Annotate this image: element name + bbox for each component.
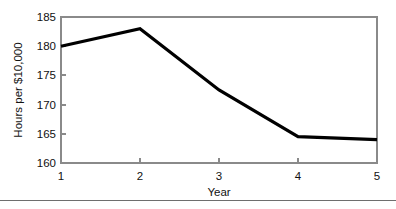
y-tick-label-160: 160	[37, 157, 56, 169]
y-tick-label-175: 175	[37, 69, 56, 81]
chart-plot-area: 160 165 170 175 180 185 1 2 3 4 5 Year H…	[0, 0, 396, 209]
y-tick-label-180: 180	[37, 40, 56, 52]
footer-divider	[0, 200, 396, 201]
x-tick-label-5: 5	[374, 170, 380, 182]
y-tick-label-185: 185	[37, 11, 56, 23]
line-chart-figure: 160 165 170 175 180 185 1 2 3 4 5 Year H…	[0, 0, 396, 209]
y-axis-title: Hours per $10,000	[12, 42, 24, 137]
y-tick-label-165: 165	[37, 128, 56, 140]
data-series-line	[61, 29, 377, 140]
x-axis-title: Year	[207, 186, 230, 198]
y-tick-label-170: 170	[37, 99, 56, 111]
x-tick-label-2: 2	[137, 170, 143, 182]
x-tick-label-4: 4	[295, 170, 302, 182]
x-tick-label-3: 3	[216, 170, 222, 182]
x-tick-label-1: 1	[58, 170, 64, 182]
